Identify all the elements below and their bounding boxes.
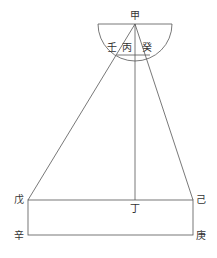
geometry-diagram: 甲 壬 丙 癸 丁 戊 己 辛 庚 — [0, 0, 217, 258]
label-xin: 辛 — [14, 229, 24, 241]
base-rectangle — [28, 200, 193, 235]
label-gui: 癸 — [142, 41, 152, 53]
label-ding: 丁 — [130, 203, 140, 214]
label-ren: 壬 — [107, 42, 117, 53]
label-ji: 己 — [196, 194, 206, 205]
label-geng: 庚 — [196, 229, 206, 241]
label-jia: 甲 — [130, 10, 140, 21]
label-bing: 丙 — [122, 42, 132, 53]
line-apex-to-left — [28, 24, 135, 200]
label-wu: 戊 — [14, 194, 24, 205]
